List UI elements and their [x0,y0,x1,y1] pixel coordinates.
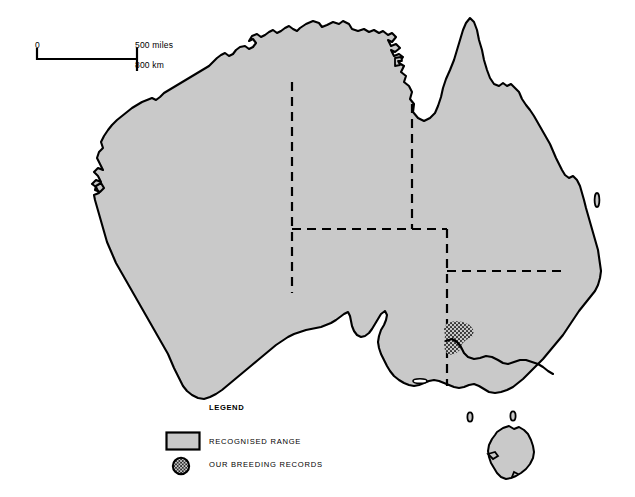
scale-zero-label: 0 [35,40,40,50]
fraser-island-shape [595,193,600,207]
scale-km-label: 800 km [135,60,164,70]
flinders-island-shape [510,411,515,420]
legend-label-recognised-range: RECOGNISED RANGE [209,437,301,446]
legend-swatch-recognised-range [165,431,205,453]
scale-miles-label: 500 miles [135,40,173,50]
kangaroo-island-shape [413,379,427,384]
king-island-shape [467,412,472,421]
legend-title: LEGEND [209,403,244,412]
legend-label-breeding-records: OUR BREEDING RECORDS [209,460,323,469]
legend-swatch-breeding-records [170,455,196,481]
map-canvas: 0 500 miles 800 km LEGEND RECOGNISED RAN… [0,0,635,497]
